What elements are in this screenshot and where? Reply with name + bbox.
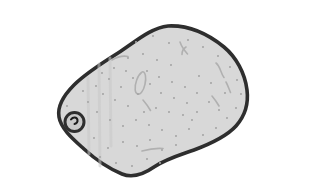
speckle-dot [173, 97, 175, 99]
speckle-dot [132, 77, 134, 79]
speckle-dot [155, 107, 157, 109]
speckle-dot [146, 70, 148, 72]
speckle-dot [131, 165, 133, 167]
speckle-dot [168, 42, 170, 44]
speckle-dot [171, 81, 173, 83]
speckle-dot [101, 72, 103, 74]
speckle-dot [115, 162, 117, 164]
shading-streak [110, 58, 111, 146]
speckle-dot [146, 158, 148, 160]
speckle-dot [99, 156, 101, 158]
shading-streak [99, 64, 100, 166]
potato-canvas [40, 16, 261, 190]
speckle-dot [66, 105, 68, 107]
speckle-dot [196, 92, 198, 94]
speckle-dot [159, 162, 161, 164]
speckle-dot [188, 128, 190, 130]
speckle-dot [142, 53, 144, 55]
speckle-dot [127, 105, 129, 107]
speckle-dot [102, 93, 104, 95]
speckle-dot [184, 86, 186, 88]
speckle-dot [182, 114, 184, 116]
speckle-dot [186, 102, 188, 104]
speckle-dot [226, 117, 228, 119]
speckle-dot [229, 66, 231, 68]
speckle-dot [135, 41, 137, 43]
speckle-dot [202, 46, 204, 48]
speckle-dot [158, 76, 160, 78]
speckle-dot [224, 92, 226, 94]
speckle-dot [196, 111, 198, 113]
potato-eye [65, 113, 84, 132]
speckle-dot [187, 39, 189, 41]
speckle-dot [149, 139, 151, 141]
speckle-dot [240, 93, 242, 95]
shading-streak [88, 78, 89, 154]
speckle-dot [137, 93, 139, 95]
speckle-dot [191, 119, 193, 121]
speckle-dot [127, 57, 129, 59]
speckle-dot [156, 59, 158, 61]
speckle-dot [152, 35, 154, 37]
speckle-dot [170, 64, 172, 66]
speckle-dot [122, 141, 124, 143]
speckle-dot [160, 92, 162, 94]
speckle-dot [109, 119, 111, 121]
speckle-dot [87, 101, 89, 103]
speckle-dot [161, 129, 163, 131]
speckle-dot [108, 78, 110, 80]
speckle-dot [120, 86, 122, 88]
speckle-dot [149, 83, 151, 85]
speckle-dot [96, 111, 98, 113]
speckle-dot [215, 127, 217, 129]
speckle-dot [217, 55, 219, 57]
speckle-dot [218, 109, 220, 111]
speckle-dot [143, 111, 145, 113]
speckle-dot [122, 125, 124, 127]
speckle-dot [148, 124, 150, 126]
potato-illustration [40, 16, 261, 190]
speckle-dot [198, 75, 200, 77]
speckle-dot [235, 107, 237, 109]
speckle-dot [136, 145, 138, 147]
speckle-dot [107, 147, 109, 149]
speckle-dot [161, 149, 163, 151]
speckle-dot [236, 79, 238, 81]
speckle-dot [175, 144, 177, 146]
speckle-dot [208, 101, 210, 103]
speckle-dot [82, 90, 84, 92]
speckle-dot [168, 111, 170, 113]
speckle-dot [93, 137, 95, 139]
speckle-dot [95, 85, 97, 87]
speckle-dot [210, 82, 212, 84]
speckle-dot [113, 67, 115, 69]
speckle-dot [125, 70, 127, 72]
speckle-dot [202, 134, 204, 136]
speckle-dot [175, 135, 177, 137]
eye-ring [65, 113, 84, 132]
speckle-dot [114, 99, 116, 101]
speckle-dot [135, 119, 137, 121]
